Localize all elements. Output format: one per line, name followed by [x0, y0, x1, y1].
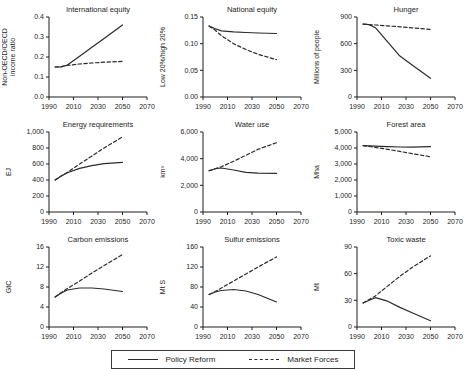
x-tick-label: 2070	[293, 218, 309, 225]
y-tick-label: 4,000	[334, 144, 352, 151]
x-tick-label: 1990	[349, 333, 365, 340]
x-tick-label: 2050	[269, 333, 285, 340]
policy-reform-line	[209, 290, 276, 303]
y-tick-label: 40	[190, 303, 198, 310]
y-tick-label: 90	[344, 243, 352, 250]
x-tick-label: 2050	[423, 103, 439, 110]
chart-svg: National equityLow 20%/high 20%0.000.050…	[156, 4, 310, 117]
x-tick-label: 2050	[115, 103, 131, 110]
chart-svg: International equityNon-OECD/OECDincome …	[2, 4, 156, 117]
chart-hunger: HungerMillions of people0300600900199020…	[310, 4, 464, 117]
scenario-charts-figure: International equityNon-OECD/OECDincome …	[0, 0, 466, 369]
x-tick-label: 1990	[41, 218, 57, 225]
x-tick-label: 1990	[41, 103, 57, 110]
x-tick-label: 2010	[66, 333, 82, 340]
y-tick-label: 0.1	[34, 73, 44, 80]
chart-toxic-waste: Toxic wasteMt030609019902010203020502070	[310, 234, 464, 347]
y-tick-label: 1,000	[26, 128, 44, 135]
x-tick-label: 2010	[220, 218, 236, 225]
y-axis-label: Mt	[313, 283, 320, 291]
chart-title: Forest area	[387, 120, 427, 129]
legend-label-market-forces: Market Forces	[287, 355, 338, 364]
y-tick-label: 900	[340, 13, 352, 20]
y-tick-label: 400	[32, 176, 44, 183]
legend-row: Policy Reform Market Forces	[2, 350, 464, 369]
y-tick-label: 0.4	[34, 13, 44, 20]
x-tick-label: 1990	[349, 218, 365, 225]
policy-reform-line	[363, 24, 430, 78]
y-tick-label: 300	[340, 67, 352, 74]
policy-reform-line	[55, 162, 122, 180]
y-tick-label: 8	[40, 283, 44, 290]
x-tick-label: 2050	[269, 218, 285, 225]
y-tick-label: 200	[32, 192, 44, 199]
y-axis-label: Low 20%/high 20%	[159, 27, 167, 87]
chart-title: Hunger	[394, 5, 419, 14]
chart-forest-area: Forest areaMha01,0002,0003,0004,0005,000…	[310, 119, 464, 232]
y-tick-label: 0.05	[184, 67, 198, 74]
policy-reform-line	[363, 146, 430, 148]
chart-svg: HungerMillions of people0300600900199020…	[310, 4, 464, 117]
x-tick-label: 2070	[447, 218, 463, 225]
x-tick-label: 1990	[349, 103, 365, 110]
market-forces-line	[55, 137, 122, 180]
chart-svg: Forest areaMha01,0002,0003,0004,0005,000…	[310, 119, 464, 232]
y-axis-label: Mt S	[159, 279, 166, 294]
y-tick-label: 0	[194, 208, 198, 215]
y-tick-label: 0.15	[184, 13, 198, 20]
x-tick-label: 2010	[66, 218, 82, 225]
x-tick-label: 2010	[220, 333, 236, 340]
solid-line-sample-icon	[128, 359, 158, 360]
market-forces-line	[209, 143, 276, 171]
y-tick-label: 0	[40, 323, 44, 330]
chart-carbon-emissions: Carbon emissionsGtC048121619902010203020…	[2, 234, 156, 347]
x-tick-label: 2010	[374, 333, 390, 340]
y-axis-label: EJ	[5, 168, 12, 176]
y-tick-label: 0	[194, 323, 198, 330]
x-tick-label: 2050	[269, 103, 285, 110]
policy-reform-line	[363, 298, 430, 321]
x-tick-label: 2070	[139, 333, 155, 340]
y-tick-label: 120	[186, 263, 198, 270]
y-axis-label: km³	[159, 166, 166, 178]
x-tick-label: 2070	[447, 333, 463, 340]
x-tick-label: 1990	[195, 333, 211, 340]
chart-title: Carbon emissions	[68, 235, 129, 244]
y-tick-label: 800	[32, 144, 44, 151]
policy-reform-line	[55, 25, 122, 67]
chart-international-equity: International equityNon-OECD/OECDincome …	[2, 4, 156, 117]
chart-title: National equity	[227, 5, 277, 14]
y-axis-label: Non-OECD/OECD	[2, 28, 8, 86]
legend-item-policy-reform: Policy Reform	[128, 355, 216, 364]
x-tick-label: 2050	[115, 333, 131, 340]
y-tick-label: 3,000	[334, 160, 352, 167]
chart-svg: Toxic wasteMt030609019902010203020502070	[310, 234, 464, 347]
chart-national-equity: National equityLow 20%/high 20%0.000.050…	[156, 4, 310, 117]
dashed-line-sample-icon	[249, 359, 279, 360]
policy-reform-line	[209, 26, 276, 33]
y-tick-label: 0.0	[34, 93, 44, 100]
y-tick-label: 0	[40, 208, 44, 215]
chart-title: Energy requirements	[63, 120, 134, 129]
y-tick-label: 2,000	[334, 176, 352, 183]
legend-item-market-forces: Market Forces	[249, 355, 338, 364]
x-tick-label: 2010	[374, 103, 390, 110]
x-tick-label: 2070	[447, 103, 463, 110]
chart-svg: Water usekm³02,0004,0006,000199020102030…	[156, 119, 310, 232]
legend: Policy Reform Market Forces	[111, 350, 356, 369]
x-tick-label: 2030	[244, 103, 260, 110]
x-tick-label: 2030	[90, 333, 106, 340]
y-tick-label: 600	[340, 40, 352, 47]
y-tick-label: 16	[36, 243, 44, 250]
y-tick-label: 1,000	[334, 192, 352, 199]
x-tick-label: 1990	[195, 103, 211, 110]
x-tick-label: 2070	[293, 333, 309, 340]
x-tick-label: 2030	[398, 103, 414, 110]
y-axis-label: GtC	[5, 281, 12, 293]
y-tick-label: 600	[32, 160, 44, 167]
y-tick-label: 4	[40, 303, 44, 310]
chart-svg: Energy requirementsEJ02004006008001,0001…	[2, 119, 156, 232]
y-tick-label: 0.00	[184, 93, 198, 100]
x-tick-label: 2010	[220, 103, 236, 110]
y-tick-label: 0	[348, 93, 352, 100]
